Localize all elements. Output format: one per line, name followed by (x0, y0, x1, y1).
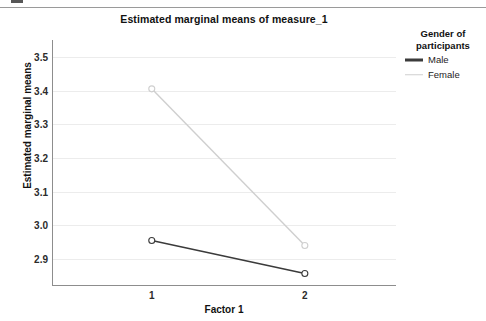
legend: Gender of participants MaleFemale (404, 28, 486, 81)
legend-title: Gender of participants (404, 28, 482, 51)
legend-line-icon (404, 70, 424, 80)
chart-canvas: Estimated marginal means of measure_1 Es… (0, 0, 486, 321)
y-tick-label: 3.1 (8, 186, 48, 197)
legend-label: Male (428, 54, 449, 65)
y-tick-label: 3.2 (8, 152, 48, 163)
series-line-male (152, 241, 305, 274)
x-axis-title: Factor 1 (52, 304, 396, 315)
legend-item-male[interactable]: Male (404, 53, 486, 66)
series-layer (52, 40, 396, 286)
legend-title-line-1: Gender of (404, 28, 482, 40)
legend-line-icon (404, 55, 424, 65)
data-point-male (302, 271, 308, 277)
y-tick-label: 3.3 (8, 119, 48, 130)
y-axis-ticks: 2.93.03.13.23.33.43.5 (0, 40, 48, 286)
chart-title: Estimated marginal means of measure_1 (52, 13, 396, 25)
data-point-male (149, 238, 155, 244)
legend-title-line-2: participants (404, 40, 482, 52)
y-tick-label: 3.4 (8, 85, 48, 96)
legend-item-female[interactable]: Female (404, 68, 486, 81)
series-line-female (152, 89, 305, 246)
y-tick-label: 3.5 (8, 51, 48, 62)
data-point-female (302, 243, 308, 249)
y-tick-label: 3.0 (8, 220, 48, 231)
y-tick-label: 2.9 (8, 254, 48, 265)
legend-entries: MaleFemale (404, 53, 486, 81)
legend-label: Female (428, 69, 460, 80)
x-tick-label: 2 (285, 290, 325, 301)
x-tick-label: 1 (132, 290, 172, 301)
data-point-female (149, 86, 155, 92)
header-divider (0, 7, 486, 8)
top-left-cropped-mark (11, 0, 23, 3)
